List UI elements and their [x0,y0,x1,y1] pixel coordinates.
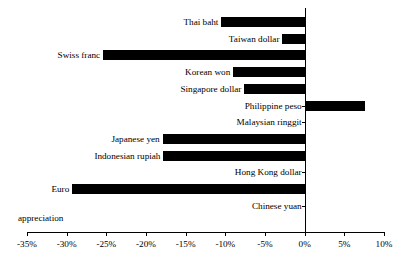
bar-row: Korean won [0,63,414,81]
bar-row: Thai baht [0,13,414,31]
axis-tick-label: 5% [338,239,350,249]
axis-tick-label: -15% [176,239,196,249]
bar-label: Indonesian rupiah [94,147,160,165]
bar-row: Euro [0,180,414,198]
axis-tick-mark [305,232,306,236]
axis-tick-mark [146,232,147,236]
axis-tick-mark [225,232,226,236]
bar-label: Thai baht [183,13,218,31]
bar-singapore-dollar [244,84,304,94]
bar-thai-baht [221,17,304,27]
bar-label: Taiwan dollar [229,30,280,48]
axis-tick-mark [344,232,345,236]
bar-label: Japanese yen [111,130,159,148]
bar-swiss-franc [103,50,305,60]
axis-tick-mark [106,232,107,236]
plot-area: Thai bahtTaiwan dollarSwiss francKorean … [0,0,414,232]
axis-tick-label: 10% [376,239,393,249]
bar-row: Taiwan dollar [0,30,414,48]
axis-tick-label: -20% [136,239,156,249]
axis-tick-mark [186,232,187,236]
axis-tick-label: 0% [299,239,311,249]
axis-tick-mark [265,232,266,236]
bar-row: Chinese yuan [0,197,414,215]
appreciation-annotation: appreciation [18,213,63,223]
bar-label: Swiss franc [58,46,101,64]
axis-tick-label: -10% [215,239,235,249]
bar-row: Hong Kong dollar [0,163,414,181]
bar-row: Philippine peso [0,97,414,115]
axis-tick-label: -35% [17,239,37,249]
bar-label: Malaysian ringgit [237,113,302,131]
bar-row: Indonesian rupiah [0,147,414,165]
axis-tick-label: -5% [257,239,272,249]
axis-tick-mark [384,232,385,236]
axis-tick-label: -30% [57,239,77,249]
bar-row: Malaysian ringgit [0,113,414,131]
bar-label: Chinese yuan [252,197,302,215]
currency-change-bar-chart: Thai bahtTaiwan dollarSwiss francKorean … [0,0,414,265]
bar-indonesian-rupiah [163,151,304,161]
axis-tick-mark [67,232,68,236]
axis-tick-mark [27,232,28,236]
bar-japanese-yen [163,134,305,144]
bar-label: Euro [51,180,69,198]
bar-row: Swiss franc [0,46,414,64]
x-axis-line [27,232,385,233]
bar-philippine-peso [305,101,365,111]
bar-label: Korean won [185,63,230,81]
bar-label: Singapore dollar [180,80,241,98]
axis-tick-label: -25% [96,239,116,249]
bar-euro [72,184,304,194]
zero-axis-line [305,8,306,232]
bar-row: Singapore dollar [0,80,414,98]
bar-label: Hong Kong dollar [235,163,302,181]
bar-label: Philippine peso [245,97,302,115]
bar-korean-won [233,67,304,77]
bar-row: Japanese yen [0,130,414,148]
